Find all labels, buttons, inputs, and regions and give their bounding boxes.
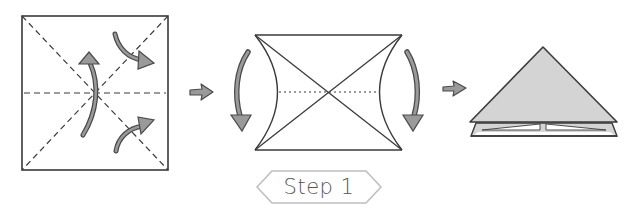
figure-collapsing-square xyxy=(255,35,402,150)
left-concave-edge xyxy=(255,35,278,150)
right-concave-edge xyxy=(380,35,403,150)
figure-waterbomb-base xyxy=(470,47,617,136)
curved-down-arrow-left-icon xyxy=(231,52,251,131)
right-arrow-icon xyxy=(190,84,213,100)
main-triangle xyxy=(470,47,617,122)
step-label: Step 1 xyxy=(257,170,381,204)
figure-square-creases xyxy=(22,16,168,170)
curved-down-arrow-right-icon xyxy=(403,52,423,131)
right-arrow-icon xyxy=(443,81,466,96)
